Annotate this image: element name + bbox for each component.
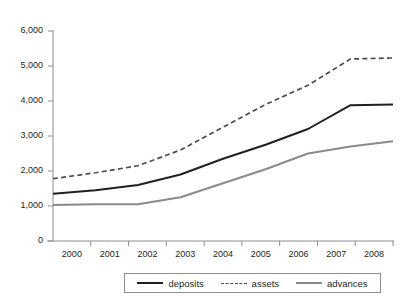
legend-label: assets [252,278,279,289]
x-axis-tick-label: 2007 [316,249,356,259]
x-axis-tick-label: 2002 [127,249,167,259]
x-axis-tick-label: 2000 [52,249,92,259]
line-chart-canvas [0,0,405,305]
y-axis-tick-label: 0 [5,235,43,245]
chart-figure: depositsassetsadvances 01,0002,0003,0004… [0,0,405,305]
legend-label: deposits [168,278,203,289]
legend-item-deposits[interactable]: deposits [137,278,203,289]
y-axis-tick-label: 2,000 [5,165,43,175]
legend-swatch-deposits [137,282,163,284]
y-axis-tick-label: 5,000 [5,60,43,70]
y-axis-tick-label: 1,000 [5,200,43,210]
legend-item-advances[interactable]: advances [296,278,368,289]
x-axis-tick-label: 2004 [203,249,243,259]
series-line-deposits [53,105,393,194]
chart-legend: depositsassetsadvances [124,273,381,293]
legend-swatch-advances [296,282,322,284]
y-axis-tick-label: 3,000 [5,130,43,140]
x-axis-tick-label: 2005 [241,249,281,259]
y-axis-tick-label: 4,000 [5,95,43,105]
x-axis-tick-label: 2003 [165,249,205,259]
x-axis-tick-label: 2006 [279,249,319,259]
series-line-assets [53,58,393,179]
cropped-source-note [0,294,405,305]
legend-label: advances [327,278,368,289]
legend-item-assets[interactable]: assets [221,278,279,289]
series-line-advances [53,141,393,205]
x-axis-tick-label: 2008 [354,249,394,259]
legend-swatch-assets [221,283,247,284]
y-axis-tick-label: 6,000 [5,25,43,35]
x-axis-tick-label: 2001 [90,249,130,259]
